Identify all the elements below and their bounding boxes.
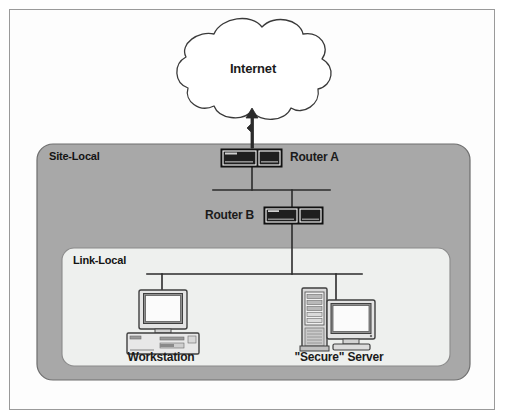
workstation-label: Workstation xyxy=(101,350,221,364)
site-local-zone-label: Site-Local xyxy=(49,150,100,162)
server-label: "Secure" Server xyxy=(269,350,409,364)
link-local-zone-label: Link-Local xyxy=(73,254,126,266)
internet-cloud-label: Internet xyxy=(0,61,506,76)
network-diagram-figure: Internet Site-Local Link-Local Router A … xyxy=(0,0,506,420)
router-a-label: Router A xyxy=(290,150,339,164)
router-b-icon xyxy=(264,207,323,224)
router-a-icon xyxy=(221,149,282,167)
router-b-label: Router B xyxy=(205,208,254,222)
